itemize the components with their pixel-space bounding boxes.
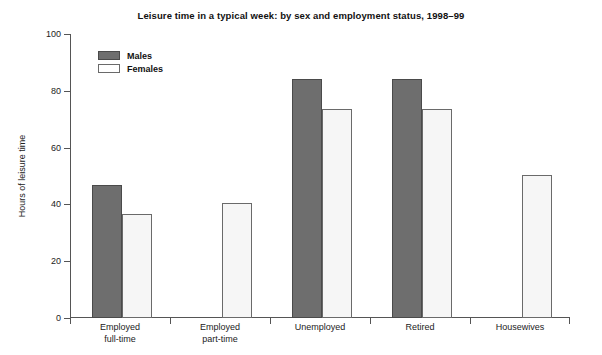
legend-swatch-females	[98, 64, 120, 73]
x-axis-category-label-line: Unemployed	[270, 322, 370, 334]
y-axis-tick-label: 40	[51, 199, 61, 209]
bar-female	[122, 214, 152, 318]
x-axis-category-label-line: Housewives	[470, 322, 570, 334]
bar-male	[292, 79, 322, 318]
bar-group	[370, 34, 470, 318]
y-axis-tick-label: 100	[46, 29, 61, 39]
bar-group	[470, 34, 570, 318]
chart-container: Leisure time in a typical week: by sex a…	[0, 0, 602, 355]
y-axis-title-container: Hours of leisure time	[14, 34, 30, 318]
bar-groups	[70, 34, 570, 318]
x-axis-category-label-line: Retired	[370, 322, 470, 334]
legend-swatch-males	[98, 51, 120, 60]
y-axis-tick-label: 60	[51, 143, 61, 153]
bar-male	[92, 185, 122, 318]
plot-area: 020406080100	[70, 34, 570, 318]
y-axis-tick-label: 80	[51, 86, 61, 96]
bar-male	[392, 79, 422, 318]
x-axis-category-label: Housewives	[470, 322, 570, 345]
legend-label-males: Males	[127, 51, 152, 61]
legend-item-males: Males	[98, 49, 163, 62]
bar-group	[70, 34, 170, 318]
x-axis-category-label: Unemployed	[270, 322, 370, 345]
legend-label-females: Females	[127, 64, 163, 74]
bar-female	[222, 203, 252, 318]
y-axis-title: Hours of leisure time	[17, 135, 27, 218]
x-axis-category-label: Employedfull-time	[70, 322, 170, 345]
x-axis-category-label: Employedpart-time	[170, 322, 270, 345]
bar-female	[322, 109, 352, 318]
x-axis-category-label-line: full-time	[70, 334, 170, 346]
x-axis-category-label: Retired	[370, 322, 470, 345]
x-axis-category-label-line: Employed	[70, 322, 170, 334]
bar-female	[522, 175, 552, 318]
legend-item-females: Females	[98, 62, 163, 75]
x-axis-category-label-line: part-time	[170, 334, 270, 346]
bar-female	[422, 109, 452, 318]
x-axis-labels: Employedfull-timeEmployedpart-timeUnempl…	[70, 322, 570, 345]
chart-legend: Males Females	[98, 49, 163, 75]
y-axis-tick-label: 0	[56, 313, 61, 323]
x-axis-category-label-line: Employed	[170, 322, 270, 334]
bar-group	[270, 34, 370, 318]
chart-title: Leisure time in a typical week: by sex a…	[0, 10, 602, 21]
y-axis-tick-label: 20	[51, 256, 61, 266]
bar-group	[170, 34, 270, 318]
